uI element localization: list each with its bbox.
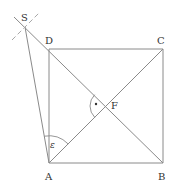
label-s: S <box>21 12 28 23</box>
label-epsilon: ε <box>50 140 55 150</box>
angle-epsilon-arc <box>44 136 68 144</box>
right-angle-arc <box>90 95 95 118</box>
right-angle-dot <box>95 103 97 105</box>
label-b: B <box>158 171 165 182</box>
label-c: C <box>157 35 165 46</box>
label-d: D <box>45 35 53 46</box>
label-f: F <box>111 100 118 111</box>
geometry-diagram: S D C A B F ε <box>0 0 171 186</box>
label-a: A <box>44 171 53 182</box>
